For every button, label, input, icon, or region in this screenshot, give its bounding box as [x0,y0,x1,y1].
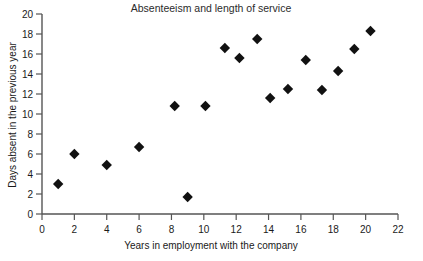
y-tick-label: 16 [22,49,34,60]
data-point-marker [69,149,79,159]
y-tick-label: 20 [22,9,34,20]
data-point-marker [301,55,311,65]
data-point-marker [265,93,275,103]
x-tick-label: 8 [169,224,175,235]
x-tick-label: 16 [295,224,307,235]
data-point-marker [283,84,293,94]
chart-canvas: Absenteeism and length of service Days a… [0,0,423,261]
y-tick-label: 6 [27,149,33,160]
x-tick-label: 22 [392,224,404,235]
data-points-group [53,26,376,202]
data-point-marker [234,53,244,63]
data-point-marker [252,34,262,44]
y-tick-label: 10 [22,109,34,120]
data-point-marker [333,66,343,76]
x-tick-label: 4 [104,224,110,235]
x-tick-label: 2 [72,224,78,235]
scatter-chart: Absenteeism and length of service Days a… [0,0,423,261]
x-tick-label: 10 [198,224,210,235]
data-point-marker [53,179,63,189]
y-tick-label: 14 [22,69,34,80]
data-point-marker [102,160,112,170]
data-point-marker [317,85,327,95]
x-tick-label: 0 [39,224,45,235]
y-tick-group: 02468101214161820 [22,9,42,220]
y-tick-label: 2 [27,189,33,200]
y-tick-label: 18 [22,29,34,40]
x-tick-label: 18 [328,224,340,235]
data-point-marker [349,44,359,54]
data-point-marker [134,142,144,152]
x-tick-label: 12 [231,224,243,235]
chart-title: Absenteeism and length of service [131,2,292,14]
x-tick-label: 14 [263,224,275,235]
y-axis-label: Days absent in the previous year [7,42,18,188]
y-tick-label: 8 [27,129,33,140]
data-point-marker [220,43,230,53]
data-point-marker [182,192,192,202]
y-tick-label: 4 [27,169,33,180]
x-tick-label: 20 [360,224,372,235]
data-point-marker [200,101,210,111]
y-tick-label: 0 [27,209,33,220]
data-point-marker [169,101,179,111]
x-tick-label: 6 [136,224,142,235]
x-axis-label: Years in employment with the company [124,240,298,251]
x-tick-group: 0246810121416182022 [39,214,404,235]
data-point-marker [365,26,375,36]
y-tick-label: 12 [22,89,34,100]
